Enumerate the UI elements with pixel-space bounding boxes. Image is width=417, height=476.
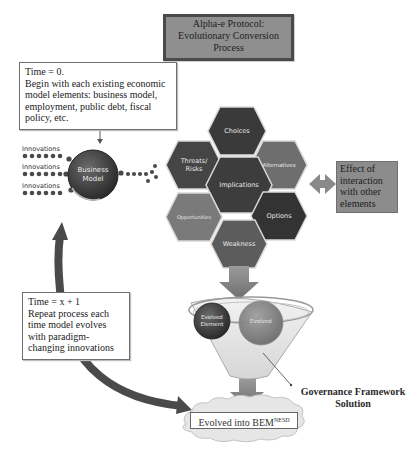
hex-label-options: Options [253,212,305,220]
innovations-label-middle: Innovations [22,163,60,171]
result-box: Evolved into BEMNESD [190,412,298,429]
business-model-label-line-1: Business [70,166,116,175]
result-superscript: NESD [274,417,290,423]
start-note-heading: Time = 0. [25,66,171,78]
innovations-label-bottom: Innovations [22,182,60,190]
diagram-title: Alpha-e Protocol: Evolutionary Conversio… [163,14,294,61]
hex-label-opportunities: Opportunities [168,213,220,221]
evolved-element-line-1: Evolved [196,314,228,321]
innovations-label-top: Innovations [22,145,60,153]
governance-line-2: Solution [293,398,413,410]
governance-line-1: Governance Framework [293,386,413,398]
business-model-label: Business Model [70,166,116,184]
double-arrow-icon [309,174,336,194]
title-line-3: Process [166,42,291,54]
hex-label-alternatives: Alternatives [253,161,305,169]
loop-note: Time = x + 1 Repeat process each time mo… [22,292,130,360]
start-note: Time = 0. Begin with each existing econo… [19,62,177,130]
loop-note-heading: Time = x + 1 [28,296,124,308]
chain-top [23,154,72,162]
effect-of-interaction-box: Effect of interaction with other element… [336,161,398,213]
chain-middle [23,171,69,176]
down-arrow-to-funnel-icon [219,266,259,300]
evolved-element-line-2: Element [196,321,228,328]
evolved-element-label: Evolved Element [196,314,228,328]
chain-output [118,164,158,183]
hex-label-threats-line-2: Risks [168,165,220,173]
result-text: Evolved into BEM [198,417,274,428]
hex-label-implications: Implications [208,181,270,189]
title-line-2: Evolutionary Conversion [166,30,291,42]
start-note-body: Begin with each existing economic model … [25,78,171,124]
hex-label-choices: Choices [210,127,264,135]
loop-note-body: Repeat process each time model evolves w… [28,308,124,354]
hex-label-weakness: Weakness [213,240,265,248]
hex-label-threats-line-1: Threats/ [168,157,220,165]
governance-framework-label: Governance Framework Solution [293,386,413,410]
hex-label-threats: Threats/ Risks [168,157,220,173]
business-model-label-line-2: Model [70,175,116,184]
title-line-1: Alpha-e Protocol: [166,18,291,30]
evolved-label-right: Evolved [243,317,279,325]
funnel-graphic [189,297,313,379]
